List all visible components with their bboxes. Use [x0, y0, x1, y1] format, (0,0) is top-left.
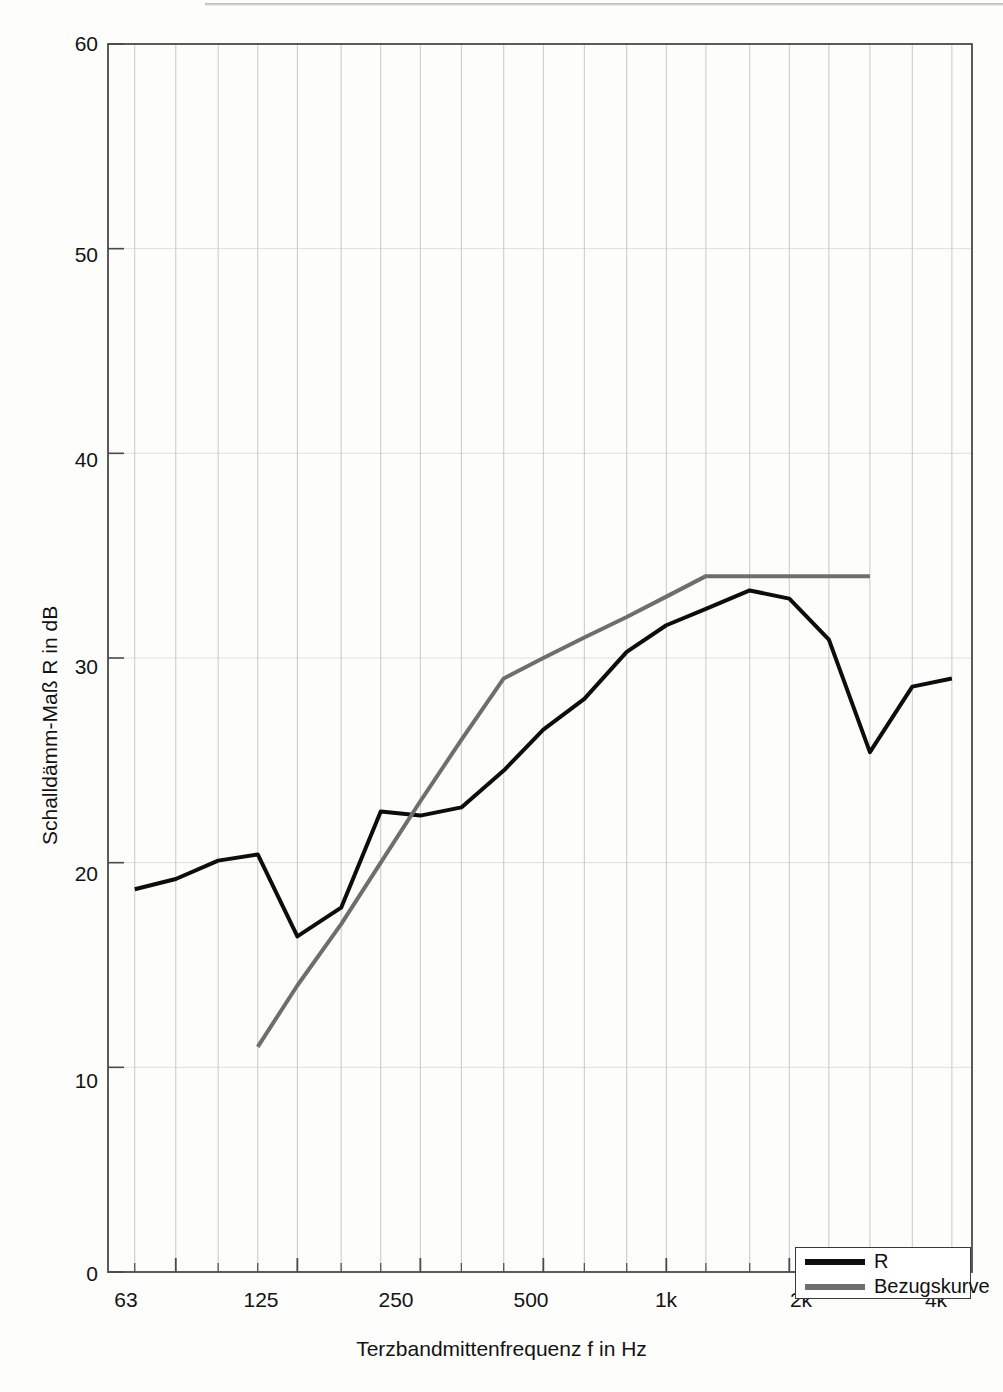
x-tick-label: 1k [626, 1288, 706, 1312]
x-tick-label: 125 [221, 1288, 301, 1312]
y-axis-title: Schalldämm-Maß R in dB [38, 606, 62, 845]
chart-plot-svg [0, 0, 1003, 1392]
y-tick-marks [108, 44, 124, 1272]
legend-item-bezugskurve: Bezugskurve [796, 1273, 970, 1299]
x-tick-label: 250 [356, 1288, 436, 1312]
x-tick-label: 500 [491, 1288, 571, 1312]
legend-label: R [874, 1250, 888, 1273]
x-axis-title: Terzbandmittenfrequenz f in Hz [0, 1337, 1003, 1361]
y-tick-label: 0 [38, 1262, 98, 1286]
y-tick-label: 20 [38, 862, 98, 886]
chart-figure: 60 50 40 30 20 10 0 63 125 250 500 1k 2k… [0, 0, 1003, 1392]
chart-legend: R Bezugskurve [795, 1247, 971, 1299]
page-canvas: 60 50 40 30 20 10 0 63 125 250 500 1k 2k… [0, 0, 1003, 1392]
y-tick-label: 40 [38, 448, 98, 472]
y-tick-label: 60 [38, 32, 98, 56]
legend-swatch-icon [805, 1284, 865, 1290]
y-tick-label: 10 [38, 1069, 98, 1093]
y-tick-label: 50 [38, 243, 98, 267]
legend-item-r: R [796, 1248, 970, 1274]
x-tick-label: 63 [86, 1288, 166, 1312]
legend-label: Bezugskurve [874, 1275, 990, 1298]
legend-swatch-icon [805, 1259, 865, 1265]
